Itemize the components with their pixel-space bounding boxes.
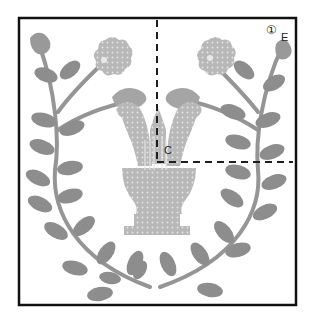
corner-label: E — [281, 32, 288, 43]
piece-number-label: ① — [266, 24, 277, 36]
center-label: C — [164, 145, 172, 156]
applique-pattern-diagram: C ① E — [0, 0, 313, 319]
